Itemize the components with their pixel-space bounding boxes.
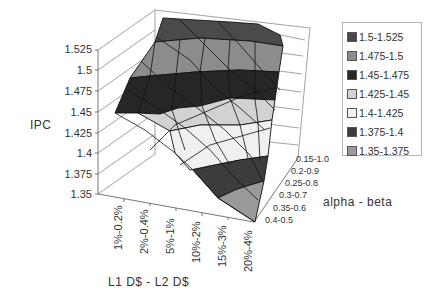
surface — [115, 18, 283, 222]
legend-swatch-icon — [347, 70, 357, 80]
z-tick-label: 1.5 — [42, 64, 92, 76]
legend: 1.5-1.525 1.475-1.5 1.45-1.475 1.425-1.4… — [342, 22, 422, 156]
x-tick-label: 2%-0.4% — [138, 209, 150, 254]
y-tick-label: 0.25-0.8 — [285, 178, 318, 188]
z-tick-label: 1.375 — [42, 168, 92, 180]
legend-label: 1.375-1.4 — [359, 126, 403, 138]
x-tick-label: 10%-2% — [190, 221, 202, 263]
legend-item: 1.4-1.425 — [347, 103, 421, 122]
y-tick-label: 0.3-0.7 — [279, 190, 307, 200]
z-tick-label: 1.525 — [42, 43, 92, 55]
legend-label: 1.35-1.375 — [359, 145, 409, 157]
z-tick-label: 1.35 — [42, 188, 92, 200]
x-axis-title: L1 D$ - L2 D$ — [108, 275, 189, 289]
legend-label: 1.425-1.45 — [359, 88, 409, 100]
legend-item: 1.45-1.475 — [347, 65, 421, 84]
legend-swatch-icon — [347, 89, 357, 99]
y-tick-label: 0.4-0.5 — [265, 215, 293, 225]
legend-item: 1.5-1.525 — [347, 27, 421, 46]
y-axis-title: alpha - beta — [323, 195, 392, 209]
z-axis-title: IPC — [30, 118, 52, 132]
legend-label: 1.5-1.525 — [359, 31, 403, 43]
legend-item: 1.375-1.4 — [347, 122, 421, 141]
x-tick-label: 5%-1% — [164, 219, 176, 254]
z-tick-label: 1.475 — [42, 85, 92, 97]
x-tick-label: 15%-3% — [216, 225, 228, 267]
legend-label: 1.4-1.425 — [359, 107, 403, 119]
legend-item: 1.425-1.45 — [347, 84, 421, 103]
z-tick-label: 1.45 — [42, 106, 92, 118]
legend-item: 1.35-1.375 — [347, 141, 421, 160]
y-tick-label: 0.35-0.6 — [273, 203, 306, 213]
legend-label: 1.45-1.475 — [359, 69, 409, 81]
legend-swatch-icon — [347, 108, 357, 118]
legend-label: 1.475-1.5 — [359, 50, 403, 62]
y-tick-label: 0.2-0.9 — [291, 166, 319, 176]
legend-swatch-icon — [347, 51, 357, 61]
legend-swatch-icon — [347, 146, 357, 156]
legend-swatch-icon — [347, 127, 357, 137]
x-tick-label: 1%-0.2% — [112, 205, 124, 250]
legend-item: 1.475-1.5 — [347, 46, 421, 65]
x-tick-label: 20%-4% — [242, 230, 254, 272]
z-tick-label: 1.4 — [42, 147, 92, 159]
legend-swatch-icon — [347, 32, 357, 42]
y-tick-label: 0.15-1.0 — [296, 154, 329, 164]
